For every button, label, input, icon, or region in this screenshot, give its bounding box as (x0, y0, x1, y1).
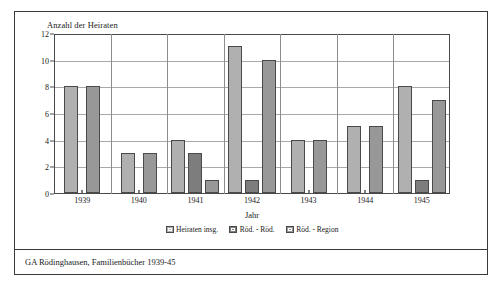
legend-swatch-icon (286, 226, 294, 233)
group-separator (111, 34, 112, 194)
legend-item: Röd. - Region (286, 225, 339, 234)
bar-group (337, 34, 394, 193)
bar (64, 86, 78, 193)
legend-swatch-icon (229, 226, 237, 233)
group-separator (393, 34, 394, 194)
bar (228, 46, 242, 193)
x-tick-label: 1942 (244, 196, 260, 205)
x-tick-label: 1945 (414, 196, 430, 205)
figure-frame: Anzahl der Heiraten 024681012 1939194019… (14, 11, 488, 275)
y-tick-label: 12 (41, 30, 49, 39)
source-caption: GA Rödinghausen, Familienbücher 1939-45 (25, 257, 176, 267)
legend-label: Röd. - Region (296, 225, 338, 234)
bar (81, 190, 83, 193)
bar (308, 190, 310, 193)
x-tick-label: 1941 (187, 196, 203, 205)
y-tick-label: 2 (45, 163, 49, 172)
bar-chart: Anzahl der Heiraten 024681012 1939194019… (15, 12, 489, 248)
y-axis-title: Anzahl der Heiraten (47, 20, 118, 30)
legend-item: Röd. - Röd. (229, 225, 275, 234)
y-tick-label: 4 (45, 136, 49, 145)
x-tick-label: 1943 (301, 196, 317, 205)
caption-divider (15, 249, 487, 250)
group-separator (337, 34, 338, 194)
x-axis-ticks: 1939194019411942194319441945 (54, 196, 450, 210)
bars-layer (54, 34, 450, 194)
bar (432, 100, 446, 193)
legend-item: Heiraten insg. (166, 225, 219, 234)
bar (415, 180, 429, 193)
bar (188, 153, 202, 193)
bar-group (54, 34, 111, 193)
bar (262, 60, 276, 193)
bar (398, 86, 412, 193)
bar-group (224, 34, 281, 193)
y-tick-label: 6 (45, 110, 49, 119)
y-tick-label: 10 (41, 56, 49, 65)
bar (364, 190, 366, 193)
group-separator (280, 34, 281, 194)
bar-group (111, 34, 168, 193)
y-tick-label: 0 (45, 190, 49, 199)
bar (86, 86, 100, 193)
bar (205, 180, 219, 193)
legend-label: Röd. - Röd. (240, 225, 275, 234)
group-separator (224, 34, 225, 194)
group-separator (167, 34, 168, 194)
x-axis-title: Jahr (15, 210, 489, 220)
bar (369, 126, 383, 193)
bar (121, 153, 135, 193)
bar (171, 140, 185, 193)
legend-swatch-icon (166, 226, 174, 233)
bar-group (280, 34, 337, 193)
x-tick-label: 1944 (357, 196, 373, 205)
bar (347, 126, 361, 193)
bar-group (393, 34, 450, 193)
chart-legend: Heiraten insg.Röd. - Röd.Röd. - Region (15, 225, 489, 234)
legend-label: Heiraten insg. (176, 225, 218, 234)
y-axis-ticks: 024681012 (15, 34, 54, 194)
x-tick-label: 1939 (74, 196, 90, 205)
bar (313, 140, 327, 193)
bar-group (167, 34, 224, 193)
bar (245, 180, 259, 193)
y-tick-label: 8 (45, 83, 49, 92)
bar (138, 190, 140, 193)
x-tick-label: 1940 (131, 196, 147, 205)
bar (143, 153, 157, 193)
bar (291, 140, 305, 193)
